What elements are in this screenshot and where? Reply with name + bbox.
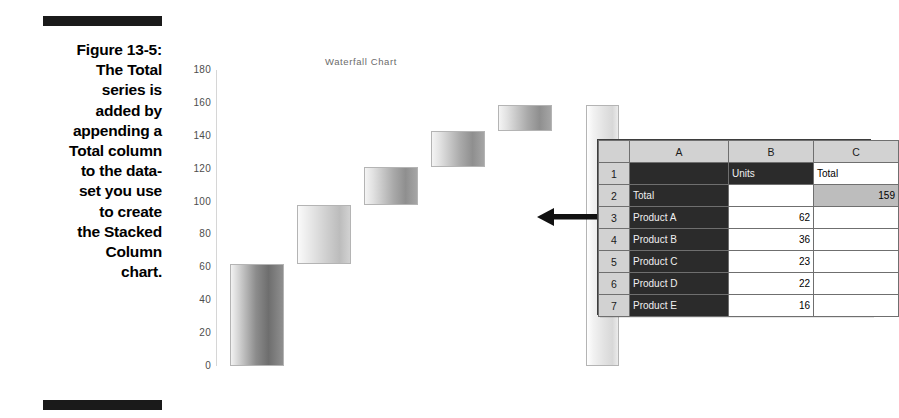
y-tick-label: 140 xyxy=(175,130,211,141)
caption-line-5: Total column xyxy=(24,141,162,161)
spreadsheet-panel[interactable]: A B C 1UnitsTotal2Total1593Product A624P… xyxy=(597,139,871,315)
chart-bar xyxy=(498,105,552,131)
spreadsheet-row: 6Product D22 xyxy=(599,273,899,295)
row-header[interactable]: 7 xyxy=(599,295,630,317)
cell-b5[interactable]: 23 xyxy=(729,251,814,273)
caption-line-3: added by xyxy=(24,101,162,121)
column-header-row: A B C xyxy=(599,141,899,163)
row-header[interactable]: 2 xyxy=(599,185,630,207)
cell-a3[interactable]: Product A xyxy=(630,207,729,229)
y-axis: 180160140120100806040200 xyxy=(175,64,211,364)
caption-rule-top xyxy=(43,16,162,26)
cell-c5[interactable] xyxy=(814,251,899,273)
chart-bar xyxy=(230,264,284,366)
y-tick-label: 80 xyxy=(175,228,211,239)
cell-a7[interactable]: Product E xyxy=(630,295,729,317)
cell-a6[interactable]: Product D xyxy=(630,273,729,295)
caption-line-8: to create xyxy=(24,202,162,222)
cell-b4[interactable]: 36 xyxy=(729,229,814,251)
cell-c1[interactable]: Total xyxy=(814,163,899,185)
cell-b1[interactable]: Units xyxy=(729,163,814,185)
cell-a4[interactable]: Product B xyxy=(630,229,729,251)
caption-line-10: Column xyxy=(24,242,162,262)
row-header[interactable]: 4 xyxy=(599,229,630,251)
cell-a1[interactable] xyxy=(630,163,729,185)
spreadsheet-row: 1UnitsTotal xyxy=(599,163,899,185)
y-tick-label: 60 xyxy=(175,261,211,272)
caption-line-2: series is xyxy=(24,80,162,100)
column-header-c[interactable]: C xyxy=(814,141,899,163)
cell-b6[interactable]: 22 xyxy=(729,273,814,295)
caption-line-6: to the data- xyxy=(24,161,162,181)
cell-c2[interactable]: 159 xyxy=(814,185,899,207)
y-tick-label: 160 xyxy=(175,97,211,108)
arrow-left-icon xyxy=(537,206,597,228)
caption-line-1: The Total xyxy=(24,60,162,80)
spreadsheet-row: 2Total159 xyxy=(599,185,899,207)
y-tick-label: 100 xyxy=(175,196,211,207)
column-header-b[interactable]: B xyxy=(729,141,814,163)
plot-area xyxy=(219,64,549,366)
y-tick-label: 40 xyxy=(175,294,211,305)
cell-c4[interactable] xyxy=(814,229,899,251)
figure-caption-text: Figure 13-5: The Total series is added b… xyxy=(24,40,162,282)
figure-number: Figure 13-5: xyxy=(24,40,162,60)
chart-bar xyxy=(297,205,351,264)
cell-c6[interactable] xyxy=(814,273,899,295)
caption-rule-bottom xyxy=(43,400,162,410)
spreadsheet-row: 4Product B36 xyxy=(599,229,899,251)
y-tick-label: 180 xyxy=(175,64,211,75)
caption-line-11: chart. xyxy=(24,262,162,282)
row-header[interactable]: 1 xyxy=(599,163,630,185)
cell-a5[interactable]: Product C xyxy=(630,251,729,273)
spreadsheet-row: 3Product A62 xyxy=(599,207,899,229)
row-header[interactable]: 3 xyxy=(599,207,630,229)
spreadsheet-body: 1UnitsTotal2Total1593Product A624Product… xyxy=(599,163,899,317)
cell-b3[interactable]: 62 xyxy=(729,207,814,229)
row-header[interactable]: 6 xyxy=(599,273,630,295)
y-tick-label: 0 xyxy=(175,360,211,371)
cell-b7[interactable]: 16 xyxy=(729,295,814,317)
chart-bar xyxy=(431,131,485,167)
caption-line-4: appending a xyxy=(24,121,162,141)
spreadsheet-row: 5Product C23 xyxy=(599,251,899,273)
cell-b2[interactable] xyxy=(729,185,814,207)
row-header[interactable]: 5 xyxy=(599,251,630,273)
column-header-a[interactable]: A xyxy=(630,141,729,163)
cell-a2[interactable]: Total xyxy=(630,185,729,207)
figure-caption-block: Figure 13-5: The Total series is added b… xyxy=(24,10,174,410)
cell-c3[interactable] xyxy=(814,207,899,229)
y-tick-label: 20 xyxy=(175,327,211,338)
y-tick-label: 120 xyxy=(175,163,211,174)
cell-c7[interactable] xyxy=(814,295,899,317)
spreadsheet-table: A B C 1UnitsTotal2Total1593Product A624P… xyxy=(598,140,899,317)
y-axis-line xyxy=(216,70,217,366)
waterfall-chart: Waterfall Chart 180160140120100806040200 xyxy=(175,50,555,380)
corner-cell[interactable] xyxy=(599,141,630,163)
caption-line-7: set you use xyxy=(24,181,162,201)
caption-line-9: the Stacked xyxy=(24,222,162,242)
annotation-arrow xyxy=(537,206,597,228)
spreadsheet-row: 7Product E16 xyxy=(599,295,899,317)
chart-bar xyxy=(364,167,418,205)
